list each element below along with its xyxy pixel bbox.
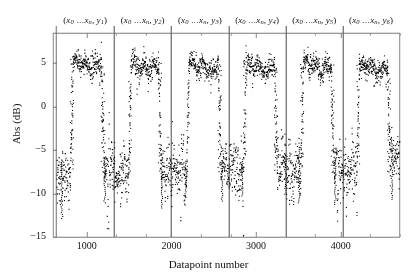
x-tick-label: 3000 [236,241,276,251]
group-label-4: (x0 ...xn, y4) [235,16,279,26]
group-label-5: (x0 ...xn, y5) [292,16,336,26]
y-tick-label: 0 [18,101,46,111]
group-label-2: (x0 ...xn, y2) [121,16,165,26]
x-tick-label: 1000 [67,241,107,251]
y-tick-label: −5 [18,144,46,154]
scatter-plot-canvas [0,0,417,279]
group-label-1: (x0 ...xn, y1) [63,16,107,26]
group-label-3: (x0 ...xn, y3) [178,16,222,26]
group-label-6: (x0 ...xn, y6) [349,16,393,26]
y-tick-label: −15 [18,231,46,241]
x-tick-label: 4000 [321,241,361,251]
y-axis-label: Abs (dB) [10,91,22,157]
figure-container: (x0 ...xn, y1) (x0 ...xn, y2) (x0 ...xn,… [0,0,417,279]
x-axis-label: Datapoint number [0,258,417,270]
y-tick-label: 5 [18,57,46,67]
x-tick-label: 2000 [151,241,191,251]
y-tick-label: −10 [18,188,46,198]
